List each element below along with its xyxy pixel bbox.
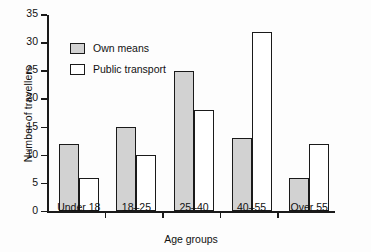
y-tick-label: 20 bbox=[26, 91, 38, 103]
y-tick-label: 0 bbox=[32, 204, 38, 216]
category-label-3: 40–55 bbox=[237, 201, 266, 213]
y-tick-label: 25 bbox=[26, 63, 38, 75]
y-tick-0: 0 bbox=[41, 211, 47, 212]
legend-swatch-icon bbox=[70, 64, 85, 75]
y-tick-label: 15 bbox=[26, 120, 38, 132]
bar-public-transport-3 bbox=[252, 32, 272, 212]
x-tick-divider-3 bbox=[277, 213, 278, 218]
y-axis-line bbox=[47, 15, 49, 213]
x-tick-divider-2 bbox=[220, 213, 221, 218]
x-tick-divider-0 bbox=[105, 213, 106, 218]
legend: Own meansPublic transport bbox=[70, 42, 166, 84]
category-label-2: 25–40 bbox=[179, 201, 208, 213]
bar-chart: Number of travellers 05101520253035 Unde… bbox=[0, 0, 371, 252]
category-label-4: Over 55 bbox=[291, 201, 328, 213]
y-tick-label: 30 bbox=[26, 35, 38, 47]
legend-swatch-icon bbox=[70, 43, 85, 54]
y-tick-15: 15 bbox=[41, 127, 47, 128]
legend-item-public-transport: Public transport bbox=[70, 63, 166, 75]
bar-own-means-2 bbox=[174, 71, 194, 211]
y-tick-label: 35 bbox=[26, 7, 38, 19]
bar-public-transport-2 bbox=[194, 110, 214, 211]
y-tick-30: 30 bbox=[41, 42, 47, 43]
y-axis-title: Number of travellers bbox=[22, 34, 34, 194]
legend-label: Own means bbox=[93, 42, 149, 54]
legend-label: Public transport bbox=[93, 63, 166, 75]
x-axis-title: Age groups bbox=[47, 233, 335, 245]
bar-own-means-1 bbox=[116, 127, 136, 211]
y-tick-25: 25 bbox=[41, 70, 47, 71]
y-tick-10: 10 bbox=[41, 155, 47, 156]
y-tick-20: 20 bbox=[41, 98, 47, 99]
category-label-1: 18–25 bbox=[122, 201, 151, 213]
y-tick-5: 5 bbox=[41, 183, 47, 184]
y-tick-label: 10 bbox=[26, 148, 38, 160]
x-tick-divider-1 bbox=[162, 213, 163, 218]
legend-item-own-means: Own means bbox=[70, 42, 166, 54]
y-tick-35: 35 bbox=[41, 14, 47, 15]
y-tick-label: 5 bbox=[32, 176, 38, 188]
category-label-0: Under 18 bbox=[57, 201, 100, 213]
